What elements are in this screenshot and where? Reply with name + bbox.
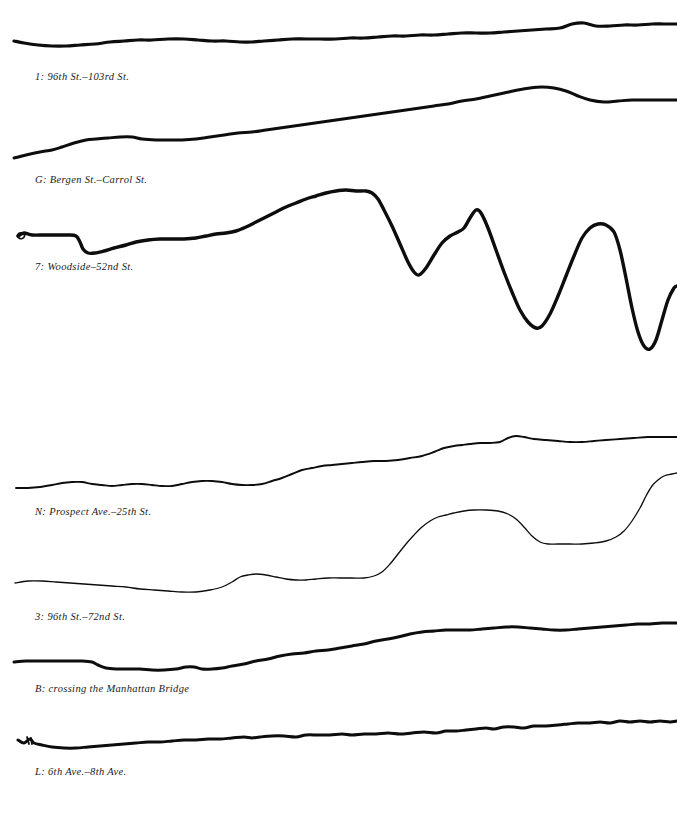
waveform-trace-7 (18, 721, 677, 748)
waveform-trace-4 (16, 436, 677, 488)
trace-caption-7: L: 6th Ave.–8th Ave. (35, 767, 126, 778)
trace-start-tick-icon (27, 737, 32, 744)
chart-page: 1: 96th St.–103rd St. G: Bergen St.–Carr… (0, 0, 677, 813)
waveform-trace-2 (14, 87, 677, 158)
trace-caption-6: B: crossing the Manhattan Bridge (35, 684, 189, 695)
trace-caption-3: 7: Woodside–52nd St. (35, 262, 134, 273)
waveform-trace-6 (14, 623, 677, 670)
trace-caption-2: G: Bergen St.–Carrol St. (35, 175, 147, 186)
trace-caption-5: 3: 96th St.–72nd St. (35, 612, 125, 623)
trace-caption-4: N: Prospect Ave.–25th St. (35, 507, 151, 518)
waveform-trace-1 (14, 23, 677, 46)
waveform-trace-5 (15, 473, 677, 592)
trace-start-loop-icon (18, 233, 25, 239)
trace-caption-1: 1: 96th St.–103rd St. (35, 72, 129, 83)
